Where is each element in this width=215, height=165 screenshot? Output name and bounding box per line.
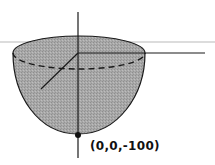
vertex-coordinate-label: (0,0,-100) [90, 139, 160, 153]
bowl-surface [13, 36, 145, 134]
vertex-point [75, 132, 81, 138]
